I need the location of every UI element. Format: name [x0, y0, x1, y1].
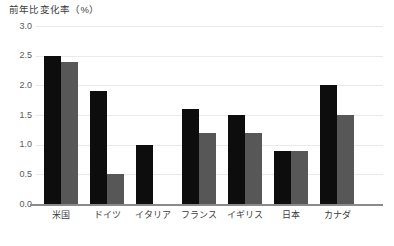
bar: [199, 133, 216, 204]
bar-group: [274, 26, 308, 204]
plot-area: [36, 26, 383, 204]
x-tick-label: カナダ: [309, 210, 365, 221]
bar: [337, 115, 354, 204]
bar: [61, 62, 78, 204]
bar-group: [320, 26, 354, 204]
bar: [107, 174, 124, 204]
bar: [90, 91, 107, 204]
x-axis-line: [30, 204, 383, 206]
bar-group: [228, 26, 262, 204]
bar: [274, 151, 291, 204]
bar-chart: 前年比変化率（%） 0.00.51.01.52.02.53.0 米国ドイツイタリ…: [0, 0, 394, 246]
y-tick-label: 2.0: [0, 81, 32, 90]
bar-group: [182, 26, 216, 204]
bar: [228, 115, 245, 204]
bar: [320, 85, 337, 204]
bar: [136, 145, 153, 204]
bar: [182, 109, 199, 204]
y-tick-label: 3.0: [0, 22, 32, 31]
y-tick-label: 1.0: [0, 140, 32, 149]
bar: [291, 151, 308, 204]
bar: [245, 133, 262, 204]
y-tick-label: 0.5: [0, 170, 32, 179]
y-tick-label: 2.5: [0, 51, 32, 60]
bar-group: [44, 26, 78, 204]
bar: [44, 56, 61, 204]
y-tick-label: 0.0: [0, 200, 32, 209]
bar-group: [90, 26, 124, 204]
y-tick-label: 1.5: [0, 111, 32, 120]
bar-group: [136, 26, 170, 204]
